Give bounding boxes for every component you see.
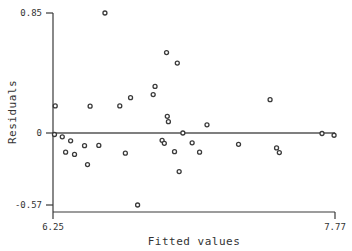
data-point [64, 150, 68, 154]
data-point [165, 51, 169, 55]
data-point [97, 143, 101, 147]
data-point [190, 141, 194, 145]
data-point [237, 142, 241, 146]
data-point [136, 203, 140, 207]
data-point [69, 139, 73, 143]
data-point [275, 146, 279, 150]
data-point [153, 84, 157, 88]
data-point [175, 61, 179, 65]
data-point [129, 96, 133, 100]
chart-canvas: 0.85 0 -0.57 6.25 7.77 Fitted values Res… [0, 0, 352, 251]
data-point [205, 123, 209, 127]
x-tick-label-right: 7.77 [324, 222, 346, 232]
data-point [118, 104, 122, 108]
data-point [166, 120, 170, 124]
data-point [83, 144, 87, 148]
data-point [73, 152, 77, 156]
data-point [60, 135, 64, 139]
data-point [165, 114, 169, 118]
y-tick-label-bottom: -0.57 [15, 200, 42, 210]
data-point [162, 141, 166, 145]
data-point [173, 150, 177, 154]
data-point [332, 133, 336, 137]
data-point [103, 11, 107, 15]
y-tick-label-zero: 0 [37, 128, 42, 138]
axes-layer [46, 13, 335, 219]
data-point [53, 104, 57, 108]
data-point [151, 93, 155, 97]
x-tick-label-left: 6.25 [42, 222, 64, 232]
data-point [123, 151, 127, 155]
residual-scatter-plot: 0.85 0 -0.57 6.25 7.77 Fitted values Res… [0, 0, 352, 251]
data-point [181, 131, 185, 135]
data-points-layer [52, 11, 336, 207]
data-point [86, 163, 90, 167]
data-point [268, 98, 272, 102]
data-point [52, 133, 56, 137]
y-tick-label-top: 0.85 [20, 8, 42, 18]
data-point [177, 170, 181, 174]
data-point [88, 104, 92, 108]
data-point [277, 151, 281, 155]
data-point [198, 150, 202, 154]
data-point [320, 132, 324, 136]
y-axis-title: Residuals [6, 80, 19, 144]
x-axis-title: Fitted values [148, 235, 241, 248]
